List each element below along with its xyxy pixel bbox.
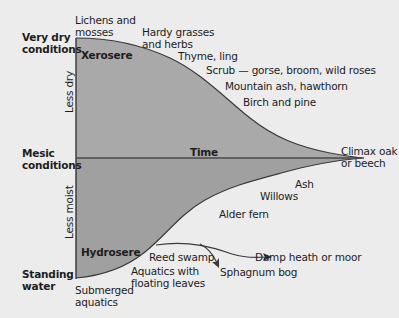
mesic-line2: conditions: [22, 159, 82, 171]
climax-label: Climax oak or beech: [341, 145, 397, 169]
very-dry-line2: conditions: [22, 43, 82, 55]
climax-line1: Climax oak: [341, 145, 397, 157]
sphagnum-label: Sphagnum bog: [220, 266, 297, 278]
mesic-label: Mesic conditions: [22, 147, 82, 171]
stage-hardy-line1: Hardy grasses: [142, 26, 214, 38]
standing-water-label: Standing water: [22, 268, 74, 292]
mesic-line1: Mesic: [22, 147, 82, 159]
xerosere-label: Xerosere: [81, 49, 132, 61]
stage-lichens: Lichens and mosses: [75, 14, 136, 38]
stage-submerged: Submerged aquatics: [75, 284, 134, 308]
stage-scrub: Scrub — gorse, broom, wild roses: [206, 64, 376, 76]
very-dry-line1: Very dry: [22, 31, 82, 43]
stage-ash: Ash: [295, 178, 314, 190]
stage-floating-aquatics: Aquatics with floating leaves: [131, 265, 205, 289]
very-dry-label: Very dry conditions: [22, 31, 82, 55]
stage-hardy-line2: and herbs: [142, 38, 214, 50]
stage-floating-line1: Aquatics with: [131, 265, 205, 277]
stage-lichens-line2: mosses: [75, 26, 136, 38]
stage-alder-fern: Alder fern: [219, 208, 269, 220]
stage-hardy-grasses: Hardy grasses and herbs: [142, 26, 214, 50]
stage-mountain-ash: Mountain ash, hawthorn: [225, 80, 348, 92]
time-label: Time: [190, 146, 218, 158]
stage-reed-swamp: Reed swamp: [149, 251, 214, 263]
damp-heath-label: Damp heath or moor: [255, 251, 361, 263]
stage-submerged-line1: Submerged: [75, 284, 134, 296]
less-moist-label: Less moist: [63, 185, 75, 239]
stage-birch-pine: Birch and pine: [243, 96, 316, 108]
stage-lichens-line1: Lichens and: [75, 14, 136, 26]
less-dry-label: Less dry: [63, 71, 75, 113]
standing-line1: Standing: [22, 268, 74, 280]
stage-thyme: Thyme, ling: [178, 50, 238, 62]
stage-willows: Willows: [260, 190, 298, 202]
stage-submerged-line2: aquatics: [75, 296, 134, 308]
standing-line2: water: [22, 280, 74, 292]
hydrosere-label: Hydrosere: [81, 246, 140, 258]
stage-floating-line2: floating leaves: [131, 277, 205, 289]
climax-line2: or beech: [341, 157, 397, 169]
